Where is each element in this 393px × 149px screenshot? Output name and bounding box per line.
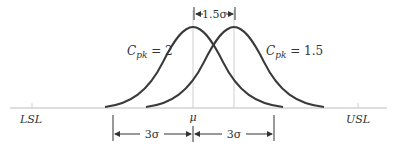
three-sigma-left-label: 3σ: [145, 128, 160, 141]
lsl-label: LSL: [19, 113, 42, 126]
shift-label: 1.5σ: [202, 8, 227, 21]
three-sigma-right-label: 3σ: [227, 128, 242, 141]
cpk-2-label: Cpk = 2: [127, 44, 173, 60]
curve-cpk-2: [105, 27, 283, 107]
cpk-diagram: 1.5σ Cpk = 2 Cpk = 1.5 LSL USL μ 3σ 3σ: [0, 0, 393, 149]
usl-label: USL: [346, 113, 370, 126]
mu-label: μ: [189, 111, 196, 124]
curve-cpk-1-5: [146, 27, 324, 107]
cpk-1-5-label: Cpk = 1.5: [266, 44, 323, 60]
